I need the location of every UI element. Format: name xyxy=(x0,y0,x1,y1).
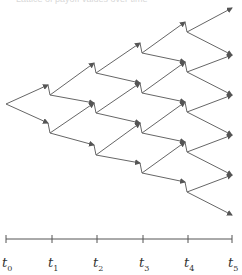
tree-edge xyxy=(140,123,142,133)
tree-edge xyxy=(185,62,187,72)
tree-edge xyxy=(96,113,140,123)
tree-edge xyxy=(50,63,94,95)
tree-edge xyxy=(185,142,187,152)
tree-edge xyxy=(187,135,232,152)
tick-label-t5: t5 xyxy=(228,255,238,273)
time-axis xyxy=(6,235,232,243)
tree-edge xyxy=(185,182,187,192)
tree-edge xyxy=(96,155,140,163)
tree-edge xyxy=(6,104,48,123)
tree-edge xyxy=(187,55,232,72)
tree-edge xyxy=(187,192,232,215)
tree-edge xyxy=(187,95,232,112)
tree-edge xyxy=(187,175,232,192)
tree-edge xyxy=(48,123,50,133)
tree-edge xyxy=(140,83,142,93)
tree-edge xyxy=(94,103,96,113)
tree-edge xyxy=(142,142,185,173)
tree-edge xyxy=(185,22,187,32)
tree-edge xyxy=(142,102,185,133)
tree-edge xyxy=(140,43,142,53)
tick-label-t0: t0 xyxy=(2,255,12,273)
tree-edge xyxy=(96,43,140,73)
tree-edge xyxy=(142,22,185,53)
tree-edge xyxy=(142,53,185,62)
tree-edge xyxy=(96,83,140,113)
tick-label-t3: t3 xyxy=(139,255,149,273)
tree-edges xyxy=(6,8,232,215)
tree-edge xyxy=(94,145,96,155)
tree-edge xyxy=(185,102,187,112)
tree-edge xyxy=(187,32,232,55)
tree-edge xyxy=(142,93,185,102)
tree-edge xyxy=(142,62,185,93)
tree-edge xyxy=(94,63,96,73)
tree-edge xyxy=(140,163,142,173)
tree-edge xyxy=(96,73,140,83)
tree-edge xyxy=(50,95,94,103)
tree-edge xyxy=(6,85,48,104)
tree-edge xyxy=(142,173,185,182)
tree-edge xyxy=(48,85,50,95)
tree-edge xyxy=(187,112,232,135)
tick-label-t4: t4 xyxy=(184,255,194,273)
tree-edge xyxy=(187,72,232,95)
tick-label-t1: t1 xyxy=(48,255,58,273)
tree-edge xyxy=(96,123,140,155)
binomial-tree-diagram xyxy=(0,0,242,275)
tree-edge xyxy=(187,152,232,175)
tree-edge xyxy=(187,8,232,32)
tree-edge xyxy=(50,133,94,145)
tree-edge xyxy=(50,103,94,133)
tree-edge xyxy=(142,133,185,142)
tick-label-t2: t2 xyxy=(93,255,103,273)
